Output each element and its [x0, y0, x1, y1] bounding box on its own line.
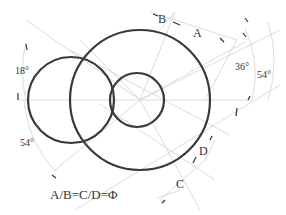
golden-ratio-diagram: B A 36° 54° 18° 54° D C A/B=C/D=Φ [0, 0, 286, 215]
label-angle-54-right: 54° [257, 69, 271, 80]
label-b: B [158, 12, 166, 26]
label-angle-36: 36° [235, 61, 249, 72]
formula-label: A/B=C/D=Φ [50, 187, 118, 202]
guide-lines [18, 12, 280, 210]
label-angle-18: 18° [15, 65, 29, 76]
label-a: A [193, 26, 202, 40]
diagram-svg: B A 36° 54° 18° 54° D C A/B=C/D=Φ [0, 0, 286, 215]
label-angle-54-left: 54° [20, 137, 34, 148]
dimension-ticks [18, 14, 250, 203]
label-c: C [176, 177, 184, 191]
label-d: D [199, 144, 208, 158]
